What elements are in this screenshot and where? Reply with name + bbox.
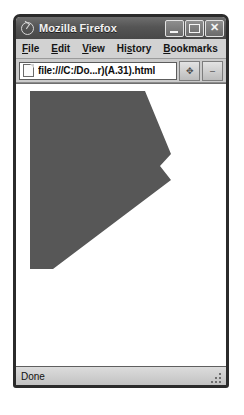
page-icon	[23, 64, 34, 77]
maximize-button[interactable]	[185, 20, 204, 37]
concave-arrow-polygon	[30, 91, 171, 269]
grip-dot	[219, 381, 221, 383]
concave-arrow-polygon-svg	[16, 84, 226, 370]
menu-item-bookmarks[interactable]: Bookmarks	[163, 43, 217, 54]
grip-dot	[219, 373, 221, 375]
browser-window: Mozilla Firefox ✕ FFileile Edit View His…	[13, 14, 229, 388]
minimize-button[interactable]	[165, 20, 184, 37]
page-viewport	[16, 83, 226, 370]
resize-grip-icon[interactable]	[211, 370, 224, 383]
status-text: Done	[21, 371, 211, 382]
window-title: Mozilla Firefox	[39, 22, 164, 34]
title-bar[interactable]: Mozilla Firefox ✕	[16, 17, 226, 39]
status-bar: Done	[16, 366, 226, 385]
menu-item-file[interactable]: FFileile	[22, 43, 39, 54]
minimize-icon	[170, 31, 178, 33]
grip-dot	[219, 377, 221, 379]
url-text: file:///C:/Do...r)(A.31).html	[38, 65, 155, 76]
grip-dot	[215, 377, 217, 379]
close-icon: ✕	[206, 22, 223, 33]
move-button[interactable]: ✥	[179, 61, 200, 81]
grip-dot	[215, 381, 217, 383]
grip-dot	[211, 381, 213, 383]
address-bar[interactable]: file:///C:/Do...r)(A.31).html	[19, 62, 177, 80]
firefox-icon	[21, 22, 34, 35]
menu-item-history[interactable]: History	[117, 43, 151, 54]
menu-bar: FFileile Edit View History Bookmarks To	[16, 39, 226, 59]
navigation-bar: file:///C:/Do...r)(A.31).html ✥ –	[16, 59, 226, 83]
menu-item-edit[interactable]: Edit	[51, 43, 70, 54]
maximize-icon	[189, 24, 200, 33]
close-button[interactable]: ✕	[205, 20, 224, 37]
menu-item-view[interactable]: View	[82, 43, 105, 54]
dropdown-button[interactable]: –	[202, 61, 223, 81]
